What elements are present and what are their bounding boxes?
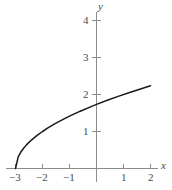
- y-tick-label-4: 4: [83, 15, 89, 26]
- y-tick-label-1: 1: [83, 126, 89, 137]
- y-tick-label-3: 3: [83, 52, 89, 63]
- x-tick-label-1: 1: [121, 172, 127, 183]
- graph-figure: −3 −2 −1 1 2 1 2 3 4 x y: [0, 0, 172, 190]
- x-tick-label--2: −2: [36, 172, 48, 183]
- y-tick-label-2: 2: [83, 89, 89, 100]
- x-tick-label-2: 2: [148, 172, 154, 183]
- x-tick-label--3: −3: [9, 172, 21, 183]
- y-axis-label: y: [98, 1, 103, 12]
- x-tick-label--1: −1: [63, 172, 75, 183]
- x-axis-label: x: [161, 160, 166, 171]
